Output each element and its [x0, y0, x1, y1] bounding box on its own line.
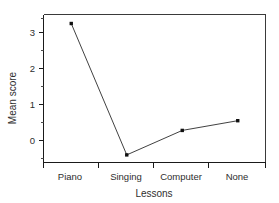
chart-figure: 0 1 2 3 Mean score Piano Singing Compute…: [0, 0, 279, 203]
x-category-label-piano: Piano: [58, 171, 82, 182]
series-markers-group: [70, 22, 240, 157]
line-chart-plot: 0 1 2 3 Mean score Piano Singing Compute…: [0, 0, 279, 203]
x-axis-title: Lessons: [135, 188, 172, 199]
data-point-marker: [181, 129, 184, 132]
x-category-label-none: None: [226, 171, 249, 182]
data-point-marker: [125, 153, 128, 156]
series-mean-score: [70, 22, 240, 157]
y-axis-title: Mean score: [7, 71, 18, 124]
y-tick-label-1: 1: [30, 99, 35, 110]
x-category-label-computer: Computer: [160, 171, 202, 182]
y-tick-label-2: 2: [30, 63, 35, 74]
y-tick-label-0: 0: [30, 135, 35, 146]
data-point-marker: [70, 22, 73, 25]
y-tick-label-3: 3: [30, 27, 35, 38]
x-category-label-singing: Singing: [110, 171, 142, 182]
data-point-marker: [236, 119, 239, 122]
series-line-path: [71, 24, 238, 155]
